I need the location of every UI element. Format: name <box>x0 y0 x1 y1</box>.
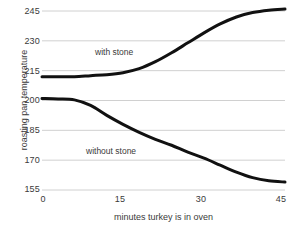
x-axis-title: minutes turkey is in oven <box>42 212 285 222</box>
y-tick-label-245: 245 <box>14 6 40 16</box>
x-tick-label-45: 45 <box>269 194 289 204</box>
y-axis-title: roasting pan temperature <box>19 20 29 180</box>
series-paths-group <box>42 9 285 182</box>
y-tick-label-155: 155 <box>14 184 40 194</box>
series-label-without-stone: without stone <box>86 146 136 156</box>
roasting-pan-temperature-chart: 245 230 215 200 185 170 155 0 15 30 45 r… <box>0 0 289 238</box>
series-line-without-stone <box>42 99 285 183</box>
x-tick-label-15: 15 <box>108 194 132 204</box>
series-line-with-stone <box>42 9 285 77</box>
x-tick-label-30: 30 <box>189 194 213 204</box>
series-label-with-stone: with stone <box>95 47 133 57</box>
x-tick-label-0: 0 <box>31 194 55 204</box>
